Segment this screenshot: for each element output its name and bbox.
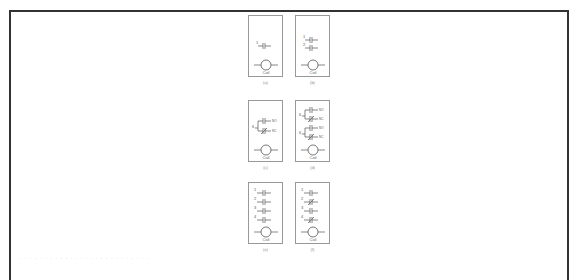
svg-text:NO: NO (319, 126, 324, 130)
contact-diagram-a: 1 Coil (249, 16, 284, 78)
svg-text:Coil: Coil (263, 70, 270, 75)
svg-text:6: 6 (252, 124, 255, 129)
svg-text:NC: NC (319, 117, 324, 121)
panel-d: 6 NO NC 6 NO NC Coil (295, 100, 330, 162)
svg-text:4: 4 (254, 214, 257, 219)
svg-text:1: 1 (301, 187, 304, 192)
coil-icon (261, 60, 271, 70)
figure-frame (9, 10, 569, 280)
panel-a: 1 Coil (248, 15, 283, 77)
coil-icon (308, 60, 318, 70)
caption-e: (e) (248, 247, 283, 252)
svg-text:NO: NO (272, 119, 277, 123)
svg-text:Coil: Coil (310, 237, 317, 242)
svg-text:NC: NC (319, 135, 324, 139)
caption-c: (c) (248, 165, 283, 170)
svg-text:NC: NC (272, 129, 277, 133)
contact-diagram-b: 1 2 Coil (296, 16, 331, 78)
figure-caption-text: · · · · · · · · · · · · · · · · · · · · … (20, 255, 560, 261)
panel-e: 1 2 3 4 Coil (248, 182, 283, 244)
svg-text:2: 2 (254, 196, 257, 201)
svg-text:Coil: Coil (263, 237, 270, 242)
svg-text:2: 2 (301, 196, 304, 201)
svg-text:6: 6 (299, 130, 302, 135)
contact-diagram-d: 6 NO NC 6 NO NC Coil (296, 101, 331, 163)
svg-text:Coil: Coil (310, 70, 317, 75)
svg-text:4: 4 (301, 214, 304, 219)
svg-text:Coil: Coil (310, 155, 317, 160)
coil-icon (308, 145, 318, 155)
caption-f: (f) (295, 247, 330, 252)
contact-diagram-c: 6 NO NC Coil (249, 101, 284, 163)
svg-text:2: 2 (303, 42, 306, 47)
caption-d: (d) (295, 165, 330, 170)
contact-diagram-e: 1 2 3 4 Coil (249, 183, 284, 245)
panel-b: 1 2 Coil (295, 15, 330, 77)
svg-text:1: 1 (303, 34, 306, 39)
svg-text:NO: NO (319, 108, 324, 112)
svg-text:6: 6 (299, 112, 302, 117)
panel-c: 6 NO NC Coil (248, 100, 283, 162)
caption-a: (a) (248, 80, 283, 85)
svg-text:3: 3 (254, 205, 257, 210)
coil-icon (261, 227, 271, 237)
panel-f: 1 2 3 4 Coil (295, 182, 330, 244)
contact-diagram-f: 1 2 3 4 Coil (296, 183, 331, 245)
svg-text:Coil: Coil (263, 155, 270, 160)
coil-icon (261, 145, 271, 155)
caption-b: (b) (295, 80, 330, 85)
coil-icon (308, 227, 318, 237)
svg-text:1: 1 (254, 187, 257, 192)
svg-text:1: 1 (256, 40, 259, 45)
svg-text:3: 3 (301, 205, 304, 210)
